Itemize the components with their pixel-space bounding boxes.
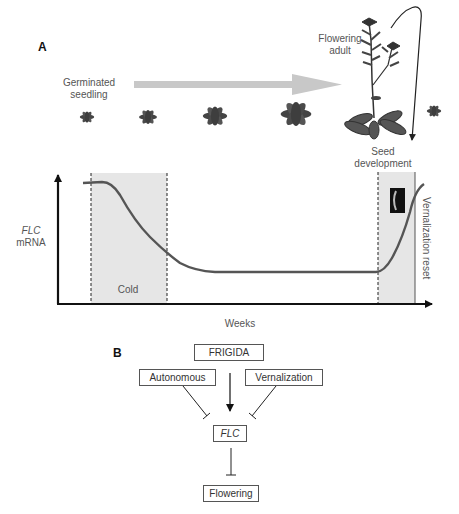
node-flc: FLC bbox=[213, 425, 247, 442]
flowering-adult-label: Flowering adult bbox=[310, 33, 370, 57]
panel-b-label: B bbox=[113, 346, 122, 360]
seed-icon bbox=[390, 188, 405, 213]
node-autonomous: Autonomous bbox=[139, 369, 216, 386]
rosette-4 bbox=[281, 100, 312, 127]
cold-label: Cold bbox=[108, 284, 148, 296]
node-flowering: Flowering bbox=[203, 485, 259, 502]
panel-a-label: A bbox=[38, 40, 47, 54]
y-axis-gene-label: FLC bbox=[14, 225, 48, 237]
rosette-5 bbox=[427, 105, 441, 118]
vernalization-reset-label: Vernalization reset bbox=[421, 197, 432, 279]
node-vernalization: Vernalization bbox=[245, 369, 323, 386]
rosette-3 bbox=[203, 105, 227, 127]
y-axis-unit-label: mRNA bbox=[14, 237, 48, 249]
rosette-1 bbox=[80, 111, 94, 124]
x-axis-label: Weeks bbox=[210, 318, 270, 330]
seed-development-label: Seed development bbox=[345, 146, 421, 170]
development-arrow bbox=[134, 74, 342, 95]
rosette-2 bbox=[139, 109, 157, 125]
node-frigida: FRIGIDA bbox=[194, 344, 264, 361]
germinated-seedling-label: Germinated seedling bbox=[54, 77, 124, 101]
